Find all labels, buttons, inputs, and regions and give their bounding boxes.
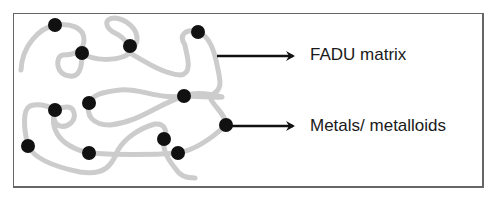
metals-metalloids-label: Metals/ metalloids: [310, 116, 446, 136]
fadu-matrix-chains: [21, 18, 226, 178]
fadu-matrix-label: FADU matrix: [310, 45, 406, 65]
polymer-diagram: [0, 0, 494, 197]
